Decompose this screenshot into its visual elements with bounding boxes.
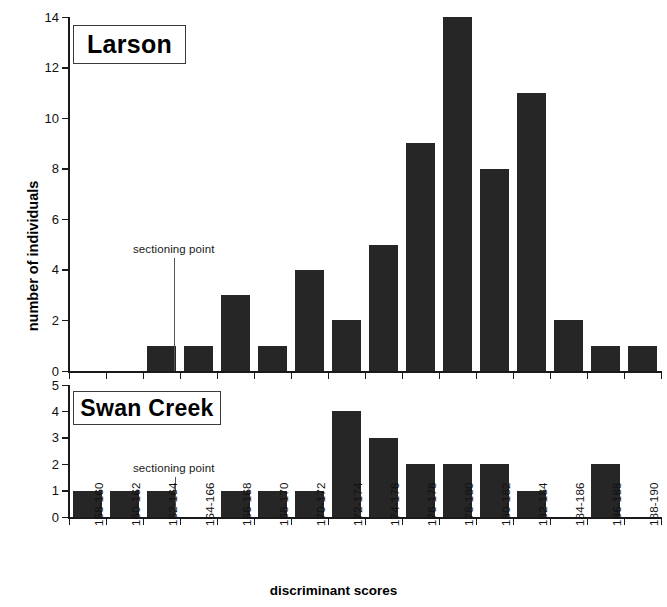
larson-sectioning-line — [174, 258, 175, 371]
swan-sectioning-label: sectioning point — [133, 462, 215, 474]
larson-y-tick-label: 14 — [21, 11, 59, 24]
swan-x-tick — [661, 519, 662, 525]
bar — [443, 17, 473, 371]
x-tick-label: 180-182 — [500, 482, 512, 526]
larson-x-tick — [328, 373, 329, 379]
x-tick-label: 188-190 — [648, 482, 660, 526]
swan-y-tick-label: 5 — [21, 379, 59, 392]
panel-title-larson: Larson — [73, 25, 186, 64]
bar — [332, 320, 362, 371]
larson-x-tick — [365, 373, 366, 379]
swan-x-tick — [291, 519, 292, 525]
x-tick-label: 174-176 — [389, 482, 401, 526]
larson-y-tick-label: 8 — [21, 162, 59, 175]
bar — [628, 346, 658, 371]
x-tick-label: 178-180 — [463, 482, 475, 526]
larson-x-tick — [217, 373, 218, 379]
bar — [554, 320, 584, 371]
larson-x-tick — [291, 373, 292, 379]
x-tick-label: 184-186 — [574, 482, 586, 526]
larson-y-tick-label: 2 — [21, 314, 59, 327]
larson-x-tick — [180, 373, 181, 379]
larson-x-tick — [550, 373, 551, 379]
swan-x-tick — [513, 519, 514, 525]
larson-y-tick-label: 0 — [21, 365, 59, 378]
larson-x-tick — [513, 373, 514, 379]
swan-y-tick-label: 0 — [21, 511, 59, 524]
larson-y-tick — [62, 118, 68, 120]
x-tick-label: 186-188 — [611, 482, 623, 526]
larson-x-tick — [402, 373, 403, 379]
larson-y-tick-label: 12 — [21, 61, 59, 74]
swan-y-tick — [62, 490, 68, 492]
x-axis-title: discriminant scores — [0, 583, 667, 598]
bar — [258, 346, 288, 371]
bar — [295, 270, 325, 371]
bar — [480, 169, 510, 371]
x-tick-label: 170-172 — [315, 482, 327, 526]
swan-y-tick — [62, 464, 68, 466]
x-tick-label: 172-174 — [352, 482, 364, 526]
larson-x-tick — [69, 373, 70, 379]
larson-x-tick — [624, 373, 625, 379]
larson-sectioning-label: sectioning point — [133, 243, 215, 255]
swan-y-tick — [62, 517, 68, 519]
larson-y-tick-label: 6 — [21, 213, 59, 226]
larson-x-tick — [661, 373, 662, 379]
larson-x-tick — [254, 373, 255, 379]
x-tick-label: 160-162 — [130, 482, 142, 526]
larson-y-tick-label: 4 — [21, 263, 59, 276]
larson-y-tick — [62, 320, 68, 322]
swan-x-tick — [143, 519, 144, 525]
larson-y-tick — [62, 269, 68, 271]
x-tick-label: 162-164 — [167, 482, 179, 526]
larson-x-tick — [476, 373, 477, 379]
larson-y-tick — [62, 168, 68, 170]
swan-x-tick — [180, 519, 181, 525]
swan-y-tick — [62, 411, 68, 413]
swan-x-tick — [69, 519, 70, 525]
swan-y-tick-label: 4 — [21, 405, 59, 418]
larson-bars — [69, 17, 661, 371]
swan-x-tick — [365, 519, 366, 525]
larson-y-tick — [62, 371, 68, 373]
swan-y-tick-label: 1 — [21, 484, 59, 497]
bar — [591, 346, 621, 371]
bar — [406, 143, 436, 371]
larson-x-tick — [587, 373, 588, 379]
swan-x-tick — [550, 519, 551, 525]
larson-y-tick-label: 10 — [21, 112, 59, 125]
larson-x-tick — [106, 373, 107, 379]
x-tick-label: 158-160 — [93, 482, 105, 526]
swan-y-tick-label: 2 — [21, 458, 59, 471]
bar — [221, 295, 251, 371]
bar — [517, 93, 547, 371]
swan-x-tick — [476, 519, 477, 525]
x-tick-label: 176-178 — [426, 482, 438, 526]
larson-x-tick — [439, 373, 440, 379]
figure-root: number of individuals 02468101214 Larson… — [0, 0, 667, 607]
swan-x-tick — [217, 519, 218, 525]
swan-x-tick — [328, 519, 329, 525]
swan-y-tick — [62, 437, 68, 439]
bar — [369, 245, 399, 371]
swan-x-tick — [106, 519, 107, 525]
swan-x-tick — [439, 519, 440, 525]
bar — [147, 346, 177, 371]
x-tick-label: 164-166 — [204, 482, 216, 526]
bar — [184, 346, 214, 371]
swan-x-tick — [624, 519, 625, 525]
panel-title-swan-creek: Swan Creek — [73, 391, 221, 425]
swan-x-tick — [402, 519, 403, 525]
swan-x-tick — [587, 519, 588, 525]
swan-y-tick — [62, 385, 68, 387]
larson-y-tick — [62, 219, 68, 221]
x-tick-label: 168-170 — [278, 482, 290, 526]
larson-x-tick — [143, 373, 144, 379]
x-tick-label: 182-184 — [537, 482, 549, 526]
larson-y-tick — [62, 67, 68, 69]
larson-y-tick — [62, 17, 68, 19]
x-tick-label: 166-168 — [241, 482, 253, 526]
swan-y-tick-label: 3 — [21, 431, 59, 444]
swan-x-tick — [254, 519, 255, 525]
